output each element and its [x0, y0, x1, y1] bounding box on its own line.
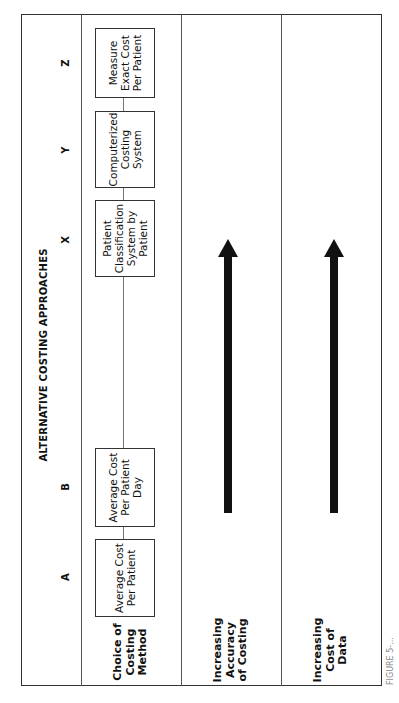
letter-a: A	[60, 567, 71, 587]
row-label-increasing-cost-of-data: Increasing Cost of Data	[295, 617, 367, 683]
box-average-cost-per-patient: Average Cost Per Patient	[95, 539, 155, 617]
figure-caption: FIGURE 5-...	[386, 637, 395, 685]
box-patient-classification-system: Patient Classification System by Patient	[95, 200, 155, 277]
letter-y: Y	[60, 140, 71, 160]
letter-b: B	[60, 477, 71, 497]
letter-z: Z	[60, 53, 71, 73]
diagram-canvas: ALTERNATIVE COSTING APPROACHES A B X Y Z…	[0, 0, 399, 703]
row-label-choice-of-costing-method: Choice of Costing Method	[95, 621, 167, 683]
divider-row2	[281, 14, 282, 686]
diagram-frame	[21, 14, 382, 686]
box-computerized-costing-system: Computerized Costing System	[95, 111, 155, 188]
diagram-title: ALTERNATIVE COSTING APPROACHES	[38, 205, 49, 505]
accuracy-arrow-head-icon	[218, 239, 238, 257]
box-measure-exact-cost-per-patient: Measure Exact Cost Per Patient	[95, 28, 155, 98]
divider-header	[81, 14, 82, 686]
accuracy-arrow-shaft	[224, 255, 232, 513]
cost-arrow-shaft	[330, 255, 338, 513]
letter-x: X	[60, 230, 71, 250]
row-label-increasing-accuracy: Increasing Accuracy of Costing	[195, 617, 267, 683]
box-average-cost-per-patient-day: Average Cost Per Patient Day	[95, 448, 155, 527]
divider-row1	[181, 14, 182, 686]
cost-arrow-head-icon	[324, 239, 344, 257]
